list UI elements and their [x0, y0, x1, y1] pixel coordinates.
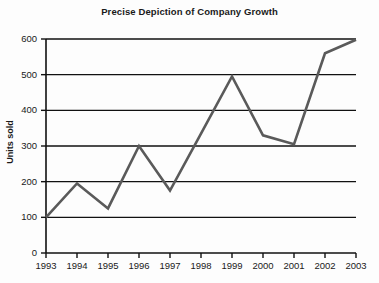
chart-container: Precise Depiction of Company Growth Unit…: [0, 0, 379, 283]
x-tick-label: 1999: [221, 260, 242, 271]
x-tick-label: 1994: [66, 260, 87, 271]
x-tick-label: 1998: [190, 260, 211, 271]
x-tick-label: 2003: [345, 260, 366, 271]
y-tick-label: 400: [21, 104, 37, 115]
line-chart-plot: 0100200300400500600 19931994199519961997…: [0, 0, 379, 283]
y-tick-group: 0100200300400500600: [21, 33, 46, 258]
y-tick-label: 600: [21, 33, 37, 44]
y-tick-label: 100: [21, 211, 37, 222]
x-tick-label: 1997: [159, 260, 180, 271]
x-tick-label: 1993: [35, 260, 56, 271]
x-tick-label: 1996: [128, 260, 149, 271]
y-tick-label: 0: [32, 247, 37, 258]
x-tick-label: 2000: [252, 260, 273, 271]
y-tick-label: 500: [21, 69, 37, 80]
x-tick-label: 1995: [97, 260, 118, 271]
y-tick-label: 300: [21, 140, 37, 151]
x-tick-label: 2001: [283, 260, 304, 271]
y-tick-label: 200: [21, 176, 37, 187]
data-series-line: [46, 40, 356, 218]
x-tick-label: 2002: [314, 260, 335, 271]
gridlines-group: [46, 39, 356, 217]
x-tick-group: 1993199419951996199719981999200020012002…: [35, 253, 366, 271]
